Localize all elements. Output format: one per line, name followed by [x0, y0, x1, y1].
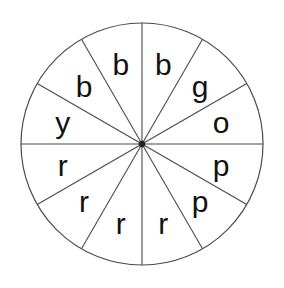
sector-label-3: p: [213, 149, 230, 182]
spinner-wheel-canvas: bgopprrrrybb: [0, 0, 284, 288]
sector-label-5: r: [158, 207, 168, 240]
sector-label-7: r: [79, 185, 89, 218]
sector-label-1: g: [192, 70, 209, 103]
sector-label-10: b: [76, 70, 93, 103]
sector-label-6: r: [116, 207, 126, 240]
sector-label-4: p: [192, 185, 209, 218]
sector-label-8: r: [58, 149, 68, 182]
spinner-wheel-figure: bgopprrrrybb: [0, 0, 284, 288]
sector-label-9: y: [55, 106, 70, 139]
sector-label-2: o: [213, 106, 230, 139]
sector-label-11: b: [112, 48, 129, 81]
sector-label-0: b: [155, 48, 172, 81]
wheel-center-hub: [139, 141, 145, 147]
